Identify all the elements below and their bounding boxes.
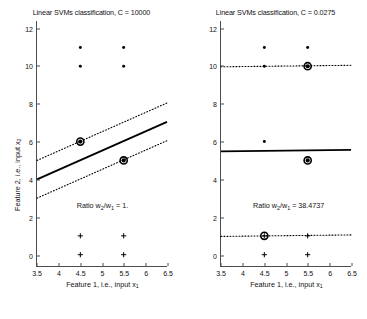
y-tick-mark	[37, 142, 40, 143]
y-tick-mark	[37, 255, 40, 256]
y-tick-label: 10	[209, 63, 217, 70]
x-tick-mark	[37, 263, 38, 266]
x-axis-label-left: Feature 1, i.e., input x1	[37, 280, 168, 289]
x-tick-label: 5	[101, 270, 105, 277]
y-tick-mark	[37, 28, 40, 29]
y-tick-mark	[37, 66, 40, 67]
x-tick-label: 4.5	[76, 270, 86, 277]
x-tick-label: 3.5	[32, 270, 42, 277]
x-tick-label: 5.5	[119, 270, 129, 277]
y-tick-label: 2	[213, 214, 217, 221]
data-point-circle	[122, 158, 126, 162]
panel-title-left: Linear SVMs classification, C = 10000	[0, 8, 183, 17]
plot-graphics-left	[37, 21, 167, 266]
data-point-circle	[306, 46, 309, 49]
y-axis-label-left: Feature 2, i.e., input x2	[13, 138, 22, 211]
x-tick-label: 5	[285, 270, 289, 277]
data-point-plus	[305, 252, 310, 257]
x-tick-mark	[146, 263, 147, 266]
x-tick-label: 4	[241, 270, 245, 277]
data-point-plus	[262, 233, 267, 238]
figure-canvas: Linear SVMs classification, C = 10000 Fe…	[0, 0, 367, 319]
ratio-annotation-left: Ratio w2/w1 = 1.	[77, 202, 128, 211]
y-tick-label: 12	[209, 25, 217, 32]
panel-title-right: Linear SVMs classification, C = 0.0275	[184, 8, 367, 17]
y-tick-label: 6	[213, 139, 217, 146]
data-point-circle	[122, 46, 125, 49]
y-tick-label: 12	[25, 25, 33, 32]
y-tick-mark	[37, 104, 40, 105]
x-tick-label: 6.5	[347, 270, 357, 277]
data-point-circle	[263, 46, 266, 49]
y-tick-mark	[221, 255, 224, 256]
margin-upper	[221, 65, 351, 67]
x-tick-mark	[308, 263, 309, 266]
ratio-value-right: 38.4737	[298, 202, 324, 211]
x-tick-mark	[264, 263, 265, 266]
decision-boundary	[37, 122, 167, 179]
x-tick-label: 6	[144, 270, 148, 277]
x-tick-label: 6.5	[163, 270, 173, 277]
data-point-plus	[305, 233, 310, 238]
data-point-circle	[122, 65, 125, 68]
y-tick-label: 4	[213, 176, 217, 183]
y-tick-mark	[221, 104, 224, 105]
y-tick-label: 8	[213, 101, 217, 108]
y-tick-mark	[221, 217, 224, 218]
x-tick-mark	[352, 263, 353, 266]
y-tick-label: 0	[29, 252, 33, 259]
data-point-plus	[121, 252, 126, 257]
y-tick-label: 8	[29, 101, 33, 108]
x-tick-label: 6	[328, 270, 332, 277]
data-point-plus	[78, 233, 83, 238]
panel-title-right-text: Linear SVMs classification, C = 0.0275	[216, 8, 335, 17]
margin-lower	[221, 235, 351, 237]
data-point-circle	[78, 140, 82, 144]
data-point-circle	[263, 140, 266, 143]
y-tick-label: 4	[29, 176, 33, 183]
x-axis-label-right: Feature 1, i.e., input x1	[221, 280, 352, 289]
decision-boundary	[221, 150, 351, 152]
y-tick-mark	[221, 28, 224, 29]
data-point-plus	[78, 252, 83, 257]
chart-panel-left: Linear SVMs classification, C = 10000 Fe…	[0, 0, 183, 319]
plot-area-left: Feature 1, i.e., input x1 Feature 2, i.e…	[36, 21, 167, 267]
y-tick-label: 0	[213, 252, 217, 259]
data-point-circle	[306, 158, 310, 162]
data-point-plus	[262, 252, 267, 257]
x-tick-mark	[80, 263, 81, 266]
x-tick-mark	[221, 263, 222, 266]
x-tick-mark	[168, 263, 169, 266]
ratio-annotation-right: Ratio w2/w1 = 38.4737	[253, 202, 324, 211]
chart-panel-right: Linear SVMs classification, C = 0.0275 F…	[184, 0, 367, 319]
x-tick-mark	[124, 263, 125, 266]
data-point-circle	[79, 65, 82, 68]
y-tick-mark	[37, 217, 40, 218]
x-tick-label: 4	[57, 270, 61, 277]
x-tick-label: 3.5	[216, 270, 226, 277]
data-point-plus	[121, 233, 126, 238]
x-tick-mark	[286, 263, 287, 266]
plot-area-right: Feature 1, i.e., input x1 Ratio w2/w1 = …	[220, 21, 351, 267]
y-tick-label: 6	[29, 139, 33, 146]
data-point-circle	[263, 65, 266, 68]
y-tick-mark	[221, 179, 224, 180]
margin-lower	[37, 141, 167, 198]
x-tick-mark	[58, 263, 59, 266]
y-tick-label: 2	[29, 214, 33, 221]
x-tick-mark	[330, 263, 331, 266]
y-tick-mark	[37, 179, 40, 180]
plot-graphics-right	[221, 21, 351, 266]
x-tick-label: 4.5	[260, 270, 270, 277]
margin-upper	[37, 103, 167, 160]
y-tick-mark	[221, 66, 224, 67]
x-tick-mark	[102, 263, 103, 266]
x-tick-label: 5.5	[303, 270, 313, 277]
y-tick-mark	[221, 142, 224, 143]
x-tick-mark	[242, 263, 243, 266]
data-point-circle	[306, 64, 310, 68]
data-point-circle	[79, 46, 82, 49]
panel-title-left-text: Linear SVMs classification, C = 10000	[33, 8, 151, 17]
y-tick-label: 10	[25, 63, 33, 70]
